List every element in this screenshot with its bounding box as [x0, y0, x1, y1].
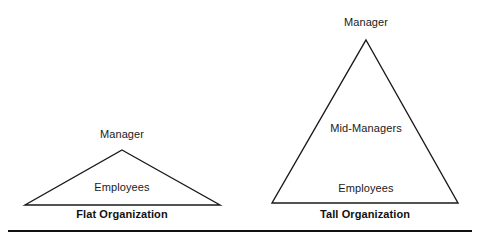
tall-level-label-manager: Manager: [344, 16, 388, 29]
tall-organization-caption: Tall Organization: [320, 208, 410, 221]
flat-organization-triangle: [25, 150, 220, 205]
org-structure-diagram: [0, 0, 480, 243]
tall-level-label-mid-managers: Mid-Managers: [330, 122, 402, 135]
flat-level-label-manager: Manager: [100, 128, 144, 141]
flat-organization-caption: Flat Organization: [76, 208, 168, 221]
diagram-canvas: Manager Employees Flat Organization Mana…: [0, 0, 480, 243]
tall-level-label-employees: Employees: [338, 182, 393, 195]
flat-level-label-employees: Employees: [94, 181, 149, 194]
